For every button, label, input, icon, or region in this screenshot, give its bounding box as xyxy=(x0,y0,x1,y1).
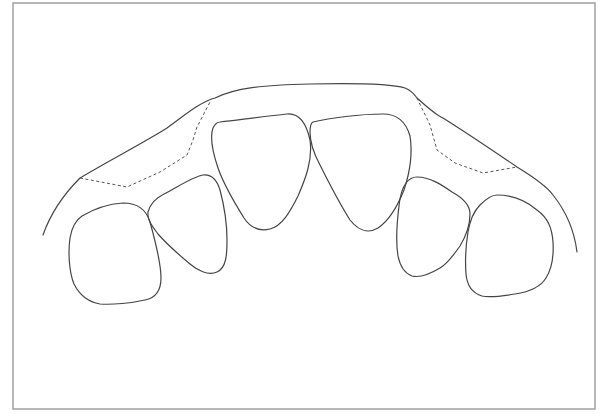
left-canine xyxy=(69,203,161,304)
right-lateral-incisor xyxy=(397,177,470,277)
figure-frame xyxy=(13,3,595,409)
dental-arch-diagram xyxy=(0,0,609,419)
left-lateral-incisor xyxy=(148,175,227,273)
left-central-incisor xyxy=(212,114,311,230)
right-dashed-boundary xyxy=(417,98,517,173)
right-canine xyxy=(466,195,554,297)
right-central-incisor xyxy=(310,114,411,231)
outer-arch-contour xyxy=(43,84,577,252)
left-dashed-boundary xyxy=(80,102,210,187)
dashed-boundaries xyxy=(80,98,517,187)
